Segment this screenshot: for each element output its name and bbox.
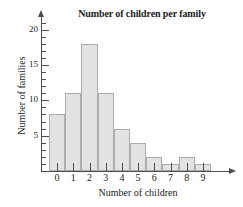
x-tick-label: 1: [65, 172, 81, 183]
y-tick-major: [42, 30, 49, 31]
x-tick: [90, 163, 91, 171]
x-tick: [122, 163, 123, 171]
x-tick-label: 7: [163, 172, 179, 183]
x-tick-label: 2: [82, 172, 98, 183]
y-tick-minor: [42, 72, 46, 73]
x-tick: [57, 163, 58, 171]
x-tick-label: 0: [49, 172, 65, 183]
y-tick-minor: [42, 51, 46, 52]
y-tick-minor: [42, 143, 46, 144]
x-tick: [203, 163, 204, 171]
plot-area: 5101520 0123456789: [0, 0, 243, 207]
y-tick-minor: [42, 44, 46, 45]
bar: [98, 93, 114, 171]
y-tick-minor: [42, 58, 46, 59]
y-tick-major: [42, 65, 49, 66]
y-tick-major: [42, 100, 49, 101]
x-tick-label: 3: [98, 172, 114, 183]
y-axis-title: Number of families: [16, 31, 27, 161]
y-axis-arrow-icon: [38, 10, 44, 17]
x-tick: [171, 163, 172, 171]
x-tick: [187, 163, 188, 171]
histogram-figure: Number of children per family 5101520 01…: [0, 0, 243, 207]
y-tick-minor: [42, 150, 46, 151]
y-tick-minor: [42, 37, 46, 38]
y-tick-minor: [42, 157, 46, 158]
x-tick: [73, 163, 74, 171]
y-tick-minor: [42, 164, 46, 165]
x-tick: [106, 163, 107, 171]
y-tick-minor: [42, 79, 46, 80]
bar: [81, 44, 97, 171]
x-tick-label: 8: [179, 172, 195, 183]
x-tick-label: 9: [195, 172, 211, 183]
y-tick-minor: [42, 114, 46, 115]
y-tick-minor: [42, 129, 46, 130]
x-tick-label: 6: [146, 172, 162, 183]
x-tick: [154, 163, 155, 171]
x-tick-label: 4: [114, 172, 130, 183]
bar: [65, 93, 81, 171]
x-axis-title: Number of children: [48, 187, 228, 198]
y-tick-minor: [42, 93, 46, 94]
x-tick: [138, 163, 139, 171]
y-tick-major: [42, 136, 49, 137]
x-tick-label: 5: [130, 172, 146, 183]
y-tick-minor: [42, 107, 46, 108]
x-axis-arrow-icon: [229, 168, 236, 174]
y-tick-minor: [42, 23, 46, 24]
y-tick-minor: [42, 122, 46, 123]
y-tick-minor: [42, 86, 46, 87]
